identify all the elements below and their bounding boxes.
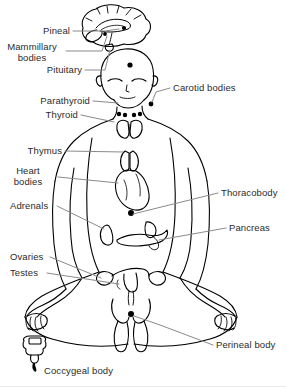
heart-shape bbox=[115, 170, 149, 216]
brain-inset-icon bbox=[82, 5, 150, 51]
label-mammillary-bodies-line2: bodies bbox=[0, 53, 64, 64]
label-pineal: Pineal bbox=[0, 26, 70, 37]
label-carotid-bodies: Carotid bodies bbox=[173, 83, 236, 94]
pituitary-dot-icon bbox=[127, 62, 132, 67]
label-thymus: Thymus bbox=[0, 146, 62, 157]
label-parathyroid: Parathyroid bbox=[0, 96, 90, 107]
perineal-dot-icon bbox=[128, 311, 134, 317]
adrenal-glands-shape bbox=[100, 222, 156, 245]
label-ovaries: Ovaries bbox=[10, 252, 43, 263]
thoracobody-dot-icon bbox=[128, 210, 134, 216]
label-testes: Testes bbox=[10, 268, 38, 279]
leader-lines bbox=[47, 29, 226, 345]
label-perineal-body: Perineal body bbox=[216, 340, 275, 351]
thymus-shape bbox=[121, 151, 139, 171]
label-heart-bodies-line2: bodies bbox=[0, 177, 56, 188]
label-pituitary: Pituitary bbox=[0, 65, 82, 76]
head-shape bbox=[96, 49, 158, 108]
crossed-legs bbox=[25, 272, 237, 352]
label-mammillary-bodies-line1: Mammillary bbox=[0, 42, 64, 53]
coccyx-inset-icon bbox=[23, 336, 46, 372]
uterus-ovaries-shape bbox=[97, 268, 166, 305]
label-heart-bodies-line1: Heart bbox=[0, 166, 56, 177]
endocrine-diagram-figure: Pineal Mammillary bodies Pituitary Parat… bbox=[0, 0, 286, 387]
label-coccygeal-body: Coccygeal body bbox=[44, 366, 113, 377]
arms-and-hands bbox=[26, 278, 236, 331]
label-thyroid: Thyroid bbox=[0, 110, 78, 121]
label-adrenals: Adrenals bbox=[10, 201, 48, 212]
label-thoracobody: Thoracobody bbox=[221, 188, 278, 199]
label-pancreas: Pancreas bbox=[229, 223, 270, 234]
neck-and-torso bbox=[53, 106, 210, 289]
